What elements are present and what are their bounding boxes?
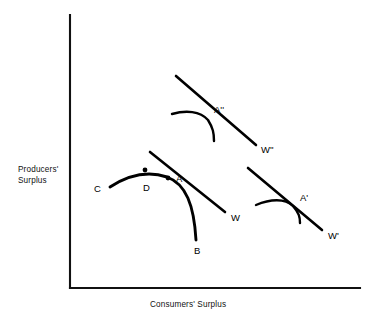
diagram-figure: D A C B A'' A' W W'' W' Producers' Surpl… (0, 0, 379, 321)
transformation-curve-main (110, 174, 196, 240)
iso-welfare-lines-group (150, 76, 322, 230)
upper-frontier-group (172, 112, 214, 141)
y-axis-title-line1: Producers' (18, 165, 59, 174)
line-label-w: W (231, 212, 240, 223)
line-label-w-prime: W' (328, 230, 339, 241)
lower-right-frontier-group (256, 200, 300, 223)
tangency-dot-a (166, 176, 171, 181)
tangency-dot-d (143, 168, 148, 173)
transformation-curve-lower-right (256, 200, 300, 223)
x-axis-title: Consumers' Surplus (150, 300, 226, 309)
iso-welfare-line-w-prime (248, 168, 322, 230)
line-label-w-double-prime: W'' (261, 144, 274, 155)
point-label-d: D (143, 182, 150, 193)
main-frontier-group (110, 174, 196, 240)
transformation-curve-upper (172, 112, 214, 141)
iso-welfare-line-w (150, 152, 225, 212)
point-label-a-prime: A' (300, 192, 308, 203)
point-label-c: C (94, 183, 101, 194)
point-label-a: A (176, 173, 183, 184)
axes-group (70, 15, 360, 288)
line-labels-group: W W'' W' (231, 144, 339, 241)
surplus-frontier-diagram: D A C B A'' A' W W'' W' Producers' Surpl… (0, 0, 379, 321)
point-label-a-double-prime: A'' (214, 104, 224, 115)
point-label-b: B (194, 245, 200, 256)
y-axis-title-line2: Surplus (18, 176, 47, 185)
